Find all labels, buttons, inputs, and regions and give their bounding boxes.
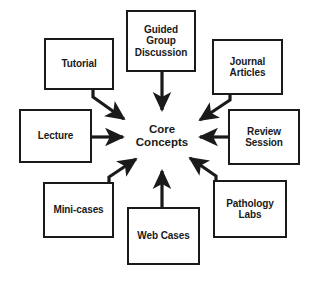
arrow-journal-articles-to-core: [200, 95, 230, 120]
node-guided-group-discussion-label: Guided Group Discussion: [135, 24, 187, 59]
node-journal-articles-label: Journal Articles: [230, 56, 266, 79]
node-web-cases[interactable]: Web Cases: [127, 207, 200, 265]
arrow-pathology-labs-to-core: [190, 158, 216, 180]
node-review-session-label: Review Session: [245, 126, 283, 149]
node-lecture[interactable]: Lecture: [19, 109, 92, 163]
node-tutorial[interactable]: Tutorial: [44, 38, 114, 90]
node-mini-cases-label: Mini-cases: [53, 204, 103, 216]
node-journal-articles[interactable]: Journal Articles: [212, 39, 283, 95]
node-pathology-labs[interactable]: Pathology Labs: [213, 180, 287, 238]
node-web-cases-label: Web Cases: [137, 230, 189, 242]
node-guided-group-discussion[interactable]: Guided Group Discussion: [126, 10, 196, 72]
arrow-tutorial-to-core: [93, 90, 124, 119]
node-pathology-labs-label: Pathology Labs: [226, 198, 273, 221]
node-review-session[interactable]: Review Session: [228, 109, 300, 165]
node-tutorial-label: Tutorial: [61, 58, 96, 70]
core-concepts-hub-label: Core Concepts: [136, 123, 188, 149]
node-lecture-label: Lecture: [38, 130, 73, 142]
node-mini-cases[interactable]: Mini-cases: [43, 182, 114, 238]
arrow-mini-cases-to-core: [109, 159, 136, 182]
core-concepts-hub: Core Concepts: [128, 118, 196, 154]
concept-diagram: Tutorial Guided Group Discussion Journal…: [0, 0, 315, 282]
